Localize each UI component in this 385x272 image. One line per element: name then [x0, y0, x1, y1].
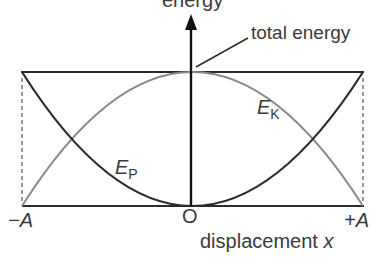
origin-label: O [182, 205, 198, 228]
arrow-up-icon [185, 14, 197, 30]
y-axis-label: energy [162, 0, 223, 12]
pos-amplitude-label: +A [344, 209, 369, 232]
ek-label: EK [257, 96, 280, 119]
neg-amplitude-label: −A [8, 209, 33, 232]
total-energy-leader [196, 38, 248, 67]
total-energy-label: total energy [251, 22, 350, 44]
x-axis-label: displacement x [200, 230, 333, 253]
energy-diagram: energy total energy EK EP O −A +A displa… [0, 0, 385, 272]
ep-label: EP [115, 156, 138, 179]
ep-curve [22, 72, 363, 206]
